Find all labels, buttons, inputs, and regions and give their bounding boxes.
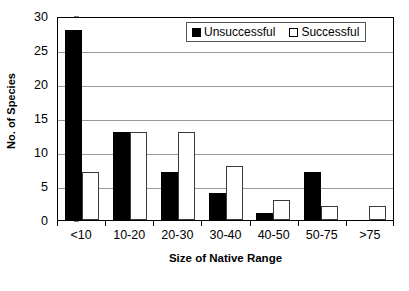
- bar-successful-20-30: [178, 132, 195, 220]
- bar-group: [202, 18, 250, 220]
- bar-successful-30-40: [226, 166, 243, 220]
- x-axis-tick-label: 40-50: [250, 228, 298, 250]
- x-axis-tick-mark: [153, 221, 154, 226]
- bar-successful-40-50: [273, 200, 290, 220]
- bar-group: [58, 18, 106, 220]
- y-axis-tick-label: 20: [34, 78, 48, 92]
- x-axis-tick-label: 20-30: [153, 228, 201, 250]
- y-axis-tick-label: 0: [41, 214, 48, 228]
- bar-group: [249, 18, 297, 220]
- x-axis-tick-mark: [57, 221, 58, 226]
- bar-successful->75: [369, 206, 386, 220]
- legend-entry-label: Successful: [301, 25, 359, 39]
- bar-successful-<10: [82, 172, 99, 220]
- y-axis-tick-label: 30: [34, 10, 48, 24]
- x-axis-title: Size of Native Range: [57, 252, 394, 264]
- y-axis-tick-labels: 051015202530: [22, 17, 52, 221]
- legend-swatch-icon: [289, 28, 298, 37]
- bar-successful-50-75: [321, 206, 338, 220]
- legend-entry-successful: Successful: [289, 25, 359, 39]
- x-axis-tick-mark: [393, 221, 394, 226]
- bar-unsuccessful-40-50: [256, 213, 273, 220]
- x-axis-tick-label: 30-40: [201, 228, 249, 250]
- x-axis-tick-marks: [57, 221, 394, 227]
- x-axis-tick-mark: [201, 221, 202, 226]
- legend-swatch-icon: [192, 28, 201, 37]
- y-axis-tick-label: 15: [34, 112, 48, 126]
- bar-group: [345, 18, 393, 220]
- bar-successful-10-20: [130, 132, 147, 220]
- x-axis-tick-label: 10-20: [105, 228, 153, 250]
- bar-unsuccessful-50-75: [304, 172, 321, 220]
- bar-group: [297, 18, 345, 220]
- y-axis-tick-label: 10: [34, 146, 48, 160]
- plot-area: [57, 17, 394, 221]
- x-axis-tick-label: <10: [57, 228, 105, 250]
- bar-unsuccessful-10-20: [113, 132, 130, 220]
- bar-chart-figure: No. of Species 051015202530 <1010-2020-3…: [0, 0, 409, 291]
- legend-entry-unsuccessful: Unsuccessful: [192, 25, 275, 39]
- x-axis-tick-mark: [298, 221, 299, 226]
- bars-layer: [58, 18, 393, 220]
- x-axis-tick-labels: <1010-2020-3030-4040-5050-75>75: [57, 228, 394, 250]
- chart-legend: UnsuccessfulSuccessful: [186, 22, 366, 42]
- bar-unsuccessful-20-30: [161, 172, 178, 220]
- x-axis-tick-mark: [346, 221, 347, 226]
- y-axis-tick-label: 5: [41, 180, 48, 194]
- bar-unsuccessful-<10: [65, 30, 82, 220]
- legend-entry-label: Unsuccessful: [204, 25, 275, 39]
- x-axis-tick-label: 50-75: [298, 228, 346, 250]
- x-axis-tick-label: >75: [346, 228, 394, 250]
- bar-unsuccessful-30-40: [209, 193, 226, 220]
- y-axis-title: No. of Species: [0, 0, 22, 221]
- bar-group: [154, 18, 202, 220]
- y-axis-title-text: No. of Species: [5, 73, 17, 149]
- bar-group: [106, 18, 154, 220]
- x-axis-tick-mark: [250, 221, 251, 226]
- x-axis-tick-mark: [105, 221, 106, 226]
- y-axis-tick-label: 25: [34, 44, 48, 58]
